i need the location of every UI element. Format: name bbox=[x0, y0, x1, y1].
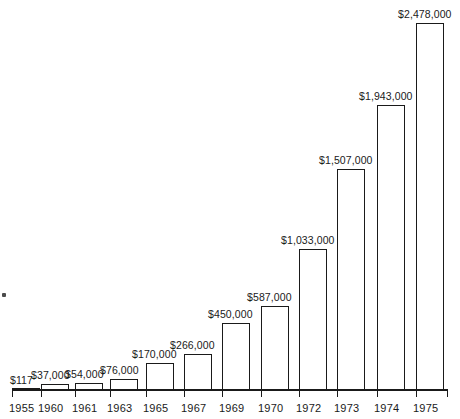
x-tick-1963 bbox=[110, 390, 111, 397]
x-tick-label-1970: 1970 bbox=[258, 402, 283, 414]
bar-1975 bbox=[416, 23, 444, 390]
bar-value-label-1973: $1,507,000 bbox=[319, 154, 373, 166]
x-tick-label-1965: 1965 bbox=[143, 402, 168, 414]
x-tick-1969 bbox=[222, 390, 223, 397]
bar-chart: $117$37,000$54,000$76,000$170,000$266,00… bbox=[0, 0, 460, 419]
x-tick-1955 bbox=[12, 390, 13, 397]
scan-artifact-speck bbox=[2, 293, 6, 297]
bar-value-label-1969: $450,000 bbox=[208, 308, 253, 320]
x-tick-1961 bbox=[75, 390, 76, 397]
bar-value-label-1972: $1,033,000 bbox=[281, 234, 335, 246]
x-tick-1973 bbox=[337, 390, 338, 397]
bar-1974 bbox=[377, 105, 405, 390]
x-tick-end bbox=[447, 390, 448, 397]
bar-value-label-1960: $37,000 bbox=[31, 369, 70, 381]
bar-1963 bbox=[110, 379, 138, 390]
x-tick-label-1972: 1972 bbox=[296, 402, 321, 414]
bar-1965 bbox=[146, 363, 174, 390]
bar-1972 bbox=[299, 249, 327, 390]
bar-value-label-1970: $587,000 bbox=[247, 291, 292, 303]
x-tick-1972 bbox=[299, 390, 300, 397]
x-tick-label-1975: 1975 bbox=[413, 402, 438, 414]
bar-value-label-1955: $117 bbox=[10, 374, 33, 386]
bar-1970 bbox=[261, 306, 289, 390]
x-tick-label-1973: 1973 bbox=[334, 402, 359, 414]
bar-value-label-1975: $2,478,000 bbox=[398, 8, 452, 20]
bar-value-label-1967: $266,000 bbox=[170, 339, 215, 351]
x-tick-label-1969: 1969 bbox=[219, 402, 244, 414]
bar-1961 bbox=[75, 383, 103, 390]
x-tick-1960 bbox=[41, 390, 42, 397]
plot-area: $117$37,000$54,000$76,000$170,000$266,00… bbox=[0, 0, 460, 419]
x-tick-label-1955: 1955 bbox=[9, 402, 34, 414]
x-tick-label-1963: 1963 bbox=[107, 402, 132, 414]
bar-1967 bbox=[184, 354, 212, 390]
bar-value-label-1961: $54,000 bbox=[65, 368, 104, 380]
bar-1960 bbox=[41, 384, 69, 390]
bar-1969 bbox=[222, 323, 250, 390]
x-tick-1975 bbox=[416, 390, 417, 397]
bar-1973 bbox=[337, 169, 365, 390]
x-tick-label-1961: 1961 bbox=[72, 402, 97, 414]
bar-value-label-1974: $1,943,000 bbox=[359, 90, 413, 102]
x-tick-label-1974: 1974 bbox=[374, 402, 399, 414]
x-tick-1974 bbox=[377, 390, 378, 397]
x-tick-label-1960: 1960 bbox=[38, 402, 63, 414]
bar-1955 bbox=[12, 388, 40, 390]
bar-value-label-1963: $76,000 bbox=[100, 364, 139, 376]
x-tick-1967 bbox=[184, 390, 185, 397]
x-tick-1970 bbox=[261, 390, 262, 397]
x-tick-label-1967: 1967 bbox=[181, 402, 206, 414]
x-tick-1965 bbox=[146, 390, 147, 397]
